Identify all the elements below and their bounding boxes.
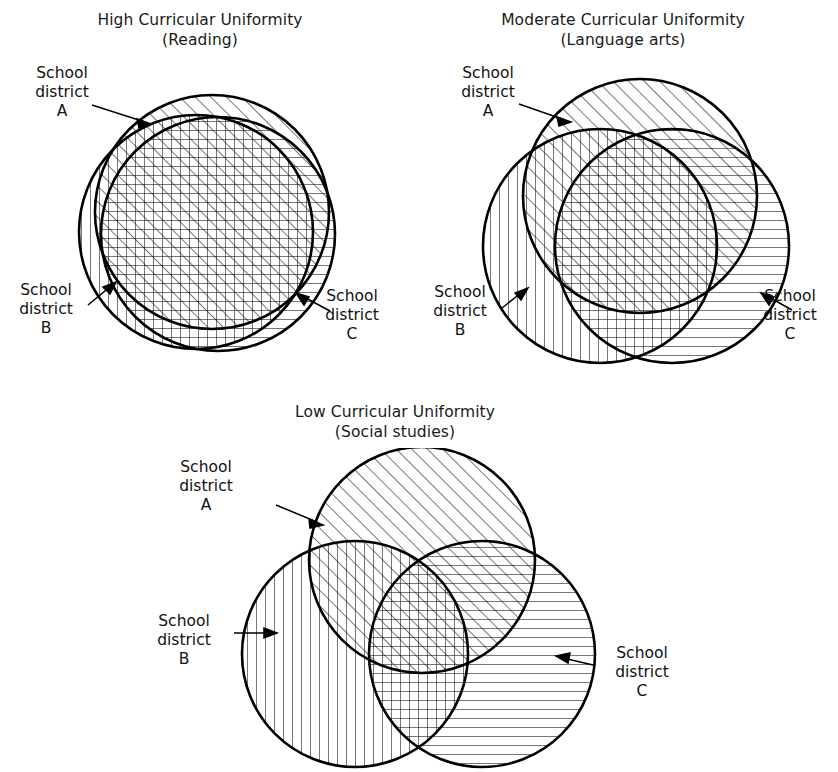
district-a-label-line1: School xyxy=(14,64,110,83)
district-b-label-line2: district xyxy=(414,302,506,321)
callout-district-b-high: School district B xyxy=(0,281,92,338)
district-b-identifier: B xyxy=(138,650,230,669)
district-a-identifier: A xyxy=(14,102,110,121)
panel-title-high: High Curricular Uniformity (Reading) xyxy=(0,10,400,50)
district-a-label-line2: district xyxy=(14,83,110,102)
district-a-label-line2: district xyxy=(440,83,536,102)
district-c-label-line1: School xyxy=(744,287,836,306)
district-b-label-line1: School xyxy=(0,281,92,300)
callout-district-c-moderate: School district C xyxy=(744,287,836,344)
panel-title-moderate: Moderate Curricular Uniformity (Language… xyxy=(418,10,828,50)
venn-figure: High Curricular Uniformity (Reading) xyxy=(0,0,838,772)
district-a-label-line1: School xyxy=(440,64,536,83)
district-c-identifier: C xyxy=(306,325,398,344)
panel-title-low: Low Curricular Uniformity (Social studie… xyxy=(230,402,560,442)
district-b-label-line2: district xyxy=(138,631,230,650)
district-c-identifier: C xyxy=(744,325,836,344)
district-c-label-line2: district xyxy=(306,306,398,325)
leader-line-district-a xyxy=(276,505,323,528)
panel-title-line2: (Social studies) xyxy=(230,422,560,442)
panel-high-curricular-uniformity: High Curricular Uniformity (Reading) xyxy=(0,0,420,390)
district-b-label-line2: district xyxy=(0,300,92,319)
district-c-label-line1: School xyxy=(306,287,398,306)
district-c-label-line1: School xyxy=(596,644,688,663)
callout-district-c-high: School district C xyxy=(306,287,398,344)
panel-title-line1: Low Curricular Uniformity xyxy=(230,402,560,422)
district-a-identifier: A xyxy=(440,102,536,121)
callout-district-b-low: School district B xyxy=(138,612,230,669)
callout-district-c-low: School district C xyxy=(596,644,688,701)
district-a-identifier: A xyxy=(158,496,254,515)
district-a-label-line2: district xyxy=(158,477,254,496)
district-b-label-line1: School xyxy=(414,283,506,302)
callout-district-b-moderate: School district B xyxy=(414,283,506,340)
callout-district-a-moderate: School district A xyxy=(440,64,536,121)
district-c-label-line2: district xyxy=(744,306,836,325)
district-c-identifier: C xyxy=(596,682,688,701)
district-b-identifier: B xyxy=(414,321,506,340)
panel-moderate-curricular-uniformity: Moderate Curricular Uniformity (Language… xyxy=(418,0,838,390)
district-a-label-line1: School xyxy=(158,458,254,477)
callout-district-a-high: School district A xyxy=(14,64,110,121)
callout-district-a-low: School district A xyxy=(158,458,254,515)
panel-title-line2: (Reading) xyxy=(0,30,400,50)
panel-title-line1: High Curricular Uniformity xyxy=(0,10,400,30)
panel-title-line2: (Language arts) xyxy=(418,30,828,50)
panel-title-line1: Moderate Curricular Uniformity xyxy=(418,10,828,30)
district-b-identifier: B xyxy=(0,319,92,338)
panel-low-curricular-uniformity: Low Curricular Uniformity (Social studie… xyxy=(130,392,710,772)
district-b-label-line1: School xyxy=(138,612,230,631)
district-c-label-line2: district xyxy=(596,663,688,682)
